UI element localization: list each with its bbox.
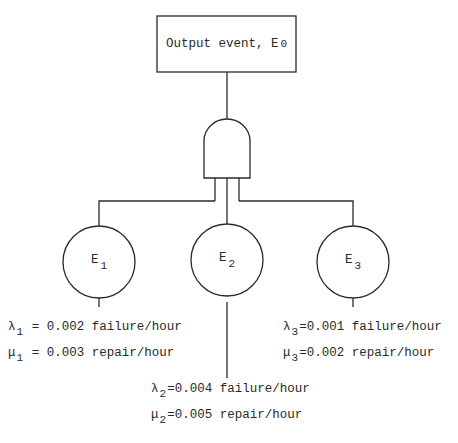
e1-text: E [91,253,99,267]
mu-subscript: 3 [292,352,299,364]
lambda-symbol: λ [8,320,16,334]
e3-repair-rate: μ3=0.002 repair/hour [283,346,434,364]
e2-failure-rate: λ2=0.004 failure/hour [151,382,310,400]
lambda-symbol: λ [151,382,159,396]
e3-failure-rate: λ3=0.001 failure/hour [283,320,442,338]
e1-repair-rate: μ1 = 0.003 repair/hour [8,346,174,364]
mu-symbol: μ [151,408,159,422]
e1-failure-rate: λ1 = 0.002 failure/hour [8,320,182,338]
repair-rate-text: = 0.003 repair/hour [24,346,174,360]
and-gate-icon [204,119,250,178]
top-event-label: Output event, E0 [157,16,296,72]
e3-subscript: 3 [354,260,361,272]
failure-rate-text: = 0.002 failure/hour [24,320,182,334]
basic-event-e2-label: E2 [212,251,242,270]
e2-text: E [219,251,227,265]
mu-subscript: 2 [160,414,167,426]
failure-rate-text: =0.001 failure/hour [299,320,442,334]
lambda-subscript: 3 [292,326,299,338]
lambda-symbol: λ [283,320,291,334]
basic-event-e3-label: E3 [338,253,368,272]
mu-subscript: 1 [17,352,24,364]
top-event-subscript: 0 [280,38,287,50]
repair-rate-text: =0.002 repair/hour [299,346,434,360]
branch-e3 [239,201,353,226]
e3-text: E [345,253,353,267]
lambda-subscript: 1 [17,326,24,338]
top-event-text: Output event, E [166,37,279,51]
mu-symbol: μ [283,346,291,360]
lambda-subscript: 2 [160,388,167,400]
e2-repair-rate: μ2=0.005 repair/hour [151,408,302,426]
repair-rate-text: =0.005 repair/hour [167,408,302,422]
basic-event-e1-label: E1 [84,253,114,272]
failure-rate-text: =0.004 failure/hour [167,382,310,396]
mu-symbol: μ [8,346,16,360]
e1-subscript: 1 [100,260,107,272]
branch-e1 [99,201,215,226]
e2-subscript: 2 [228,258,235,270]
